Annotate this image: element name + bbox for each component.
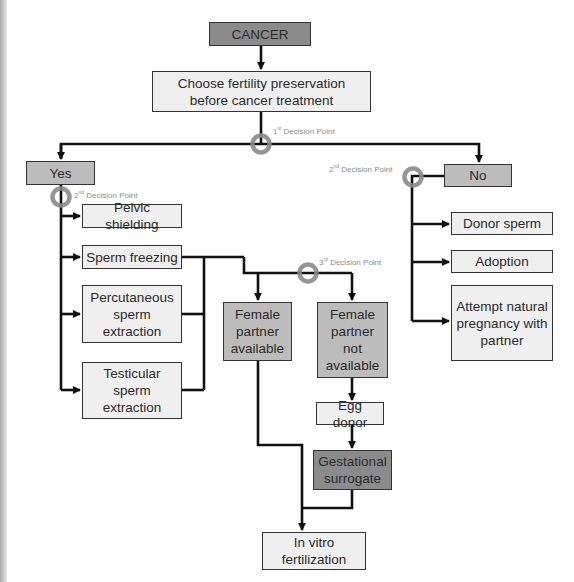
node-female-partner-available: Female partner available [223, 302, 292, 361]
node-label: CANCER [231, 26, 288, 43]
node-label: Testicular sperm extraction [97, 365, 167, 416]
node-label: Yes [49, 165, 71, 182]
decision-point-3-label: 3rd Decision Point [319, 256, 381, 267]
node-female-partner-not-available: Female partner not available [317, 302, 388, 378]
node-gestational-surrogate: Gestational surrogate [313, 450, 392, 490]
node-pelvic-shielding: Pelvic shielding [82, 204, 182, 228]
node-yes: Yes [26, 161, 95, 185]
node-label: Female partner available [230, 306, 285, 357]
node-label: Egg donor [320, 397, 380, 431]
node-label: Percutaneous sperm extraction [90, 289, 173, 340]
node-label: Attempt natural pregnancy with partner [456, 298, 548, 349]
decision-point-2-no-label: 2nd Decision Point [329, 163, 392, 174]
node-choose-fertility-preservation: Choose fertility preservation before can… [152, 71, 371, 112]
node-percutaneous-sperm-extraction: Percutaneous sperm extraction [82, 285, 182, 343]
node-in-vitro-fertilization: In vitro fertilization [262, 532, 366, 570]
node-adoption: Adoption [451, 250, 553, 273]
node-label: Pelvic shielding [86, 199, 178, 233]
node-label: Gestational surrogate [317, 453, 388, 487]
node-no: No [444, 164, 512, 187]
decision-point-2-yes-label: 2nd Decision Point [74, 189, 137, 200]
node-donor-sperm: Donor sperm [451, 212, 553, 235]
node-label: Female partner not available [326, 306, 379, 374]
node-label: Choose fertility preservation before can… [163, 75, 360, 109]
node-attempt-natural-pregnancy: Attempt natural pregnancy with partner [451, 285, 553, 361]
node-testicular-sperm-extraction: Testicular sperm extraction [82, 362, 182, 419]
node-label: Donor sperm [463, 215, 541, 232]
decision-point-1-label: 1st Decision Point [273, 125, 335, 136]
node-egg-donor: Egg donor [316, 402, 384, 425]
node-label: No [469, 167, 486, 184]
node-cancer: CANCER [209, 22, 311, 46]
node-label: Sperm freezing [86, 249, 178, 266]
node-label: In vitro fertilization [277, 534, 351, 568]
node-sperm-freezing: Sperm freezing [82, 245, 182, 269]
node-label: Adoption [475, 253, 528, 270]
